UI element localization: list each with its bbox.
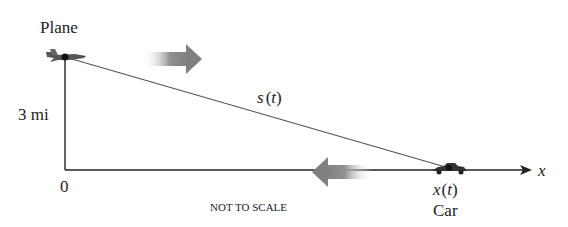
plane-direction-arrow-icon: [143, 44, 202, 74]
hypotenuse-line: [65, 57, 449, 168]
axis-label: x: [537, 161, 546, 180]
related-rates-diagram: Plane 3 mi 0 s(t) x(t) Car x: [0, 0, 568, 227]
pos-close: ): [452, 180, 458, 199]
pos-x: x: [432, 180, 441, 199]
hypotenuse-label: s(t): [257, 88, 282, 107]
scale-note: NOT TO SCALE: [210, 201, 287, 213]
plane-label: Plane: [40, 18, 78, 37]
origin-label: 0: [60, 177, 69, 196]
hyp-s: s: [257, 88, 264, 107]
car-direction-arrow-icon: [312, 157, 372, 187]
car-position-label: x(t): [432, 180, 458, 199]
hyp-close: ): [276, 88, 282, 107]
height-label: 3 mi: [18, 105, 49, 124]
plane-icon: [46, 49, 86, 62]
car-label: Car: [433, 201, 458, 220]
